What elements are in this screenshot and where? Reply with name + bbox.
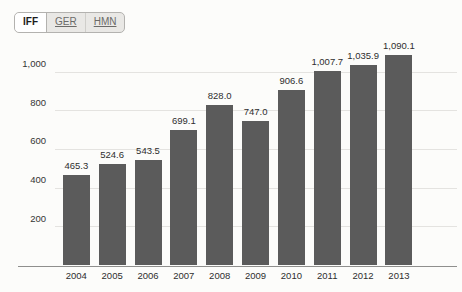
- y-axis-tick-label: 1,000: [0, 58, 46, 70]
- bar: [278, 90, 305, 265]
- bar-value-label: 543.5: [118, 145, 178, 157]
- x-axis-line: [18, 266, 457, 267]
- y-axis-tick-label: 400: [0, 174, 46, 186]
- bar: [135, 160, 162, 265]
- bar: [99, 164, 126, 266]
- y-axis-tick-label: 800: [0, 97, 46, 109]
- bar-value-label: 1,090.1: [369, 40, 429, 52]
- bar-chart: 2004006008001,000465.32004524.62005543.5…: [0, 0, 462, 292]
- bar: [170, 130, 197, 265]
- bar: [206, 105, 233, 265]
- bar: [385, 55, 412, 266]
- chart-widget: IFF GER HMN 2004006008001,000465.3200452…: [0, 0, 462, 292]
- bar-value-label: 747.0: [226, 106, 286, 118]
- y-axis-tick-label: 600: [0, 135, 46, 147]
- bar-value-label: 906.6: [261, 75, 321, 87]
- bar: [350, 65, 377, 265]
- bar: [63, 175, 90, 265]
- y-axis-tick-label: 200: [0, 213, 46, 225]
- x-axis-tick-label: 2013: [369, 270, 429, 282]
- bar: [314, 71, 341, 266]
- bar-value-label: 699.1: [154, 115, 214, 127]
- bar-value-label: 465.3: [46, 160, 106, 172]
- bar-value-label: 1,035.9: [333, 50, 393, 62]
- bar: [242, 121, 269, 266]
- bar-value-label: 828.0: [190, 90, 250, 102]
